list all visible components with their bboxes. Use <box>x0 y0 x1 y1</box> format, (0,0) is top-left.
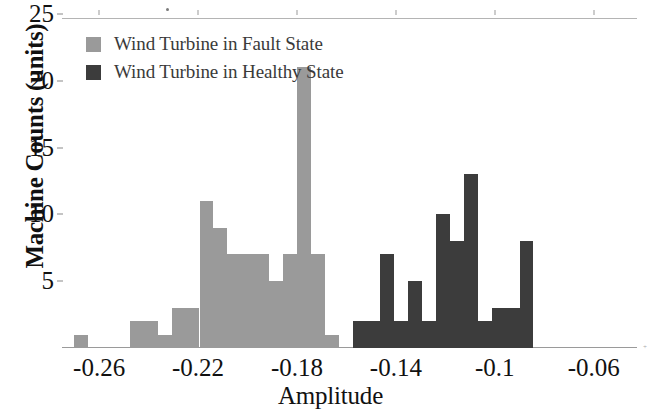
histogram-bar-fault <box>325 335 339 348</box>
histogram-bar-healthy <box>380 254 394 348</box>
x-tick-label: -0.26 <box>73 354 125 382</box>
histogram-bar-healthy <box>436 214 450 348</box>
x-tick-mark <box>593 10 594 15</box>
histogram-bar-healthy <box>464 174 478 348</box>
x-tick-mark <box>395 10 396 15</box>
histogram-bar-fault <box>130 321 144 348</box>
legend-swatch-icon <box>86 65 101 80</box>
histogram-bar-healthy <box>366 321 380 348</box>
histogram-bar-fault <box>311 254 325 348</box>
histogram-bar-fault <box>144 321 158 348</box>
histogram-bar-fault <box>158 335 172 348</box>
histogram-bar-fault <box>269 281 283 348</box>
histogram-bar-healthy <box>450 241 464 348</box>
x-tick-mark <box>296 10 297 15</box>
histogram-bar-healthy <box>506 308 520 348</box>
histogram-bar-fault <box>74 335 88 348</box>
histogram-bar-healthy <box>353 321 367 348</box>
top-axis-line <box>62 18 637 19</box>
x-axis-title: Amplitude <box>0 382 661 410</box>
legend: Wind Turbine in Fault StateWind Turbine … <box>86 30 344 86</box>
scan-speck-artifact <box>166 8 169 11</box>
histogram-bar-fault <box>227 254 241 348</box>
legend-item: Wind Turbine in Healthy State <box>86 58 344 86</box>
x-tick-label: -0.22 <box>172 354 224 382</box>
histogram-bar-fault <box>283 254 297 348</box>
legend-label: Wind Turbine in Fault State <box>114 33 323 55</box>
histogram-bar-healthy <box>422 321 436 348</box>
x-tick-label: -0.14 <box>370 354 422 382</box>
histogram-bar-fault <box>213 228 227 348</box>
x-tick-label: -0.1 <box>475 354 515 382</box>
y-tick-mark <box>57 147 63 148</box>
corner-artifact: + <box>643 343 647 351</box>
histogram-bar-healthy <box>478 321 492 348</box>
x-tick-label: -0.18 <box>271 354 323 382</box>
y-tick-mark <box>57 80 63 81</box>
x-tick-mark <box>198 10 199 15</box>
legend-label: Wind Turbine in Healthy State <box>114 61 344 83</box>
histogram-bar-fault <box>186 308 200 348</box>
x-tick-mark <box>494 10 495 15</box>
histogram-bar-fault <box>200 201 214 348</box>
y-tick-mark <box>57 14 63 15</box>
y-tick-mark <box>57 214 63 215</box>
histogram-bar-fault <box>255 254 269 348</box>
histogram-bar-fault <box>241 254 255 348</box>
histogram-bar-fault <box>297 67 311 348</box>
histogram-bar-healthy <box>394 321 408 348</box>
x-tick-mark <box>99 10 100 15</box>
histogram-figure: Machine Counts (units) 510152025 -0.26-0… <box>0 0 661 414</box>
y-tick-mark <box>57 281 63 282</box>
legend-item: Wind Turbine in Fault State <box>86 30 344 58</box>
histogram-bar-healthy <box>492 308 506 348</box>
legend-swatch-icon <box>86 37 101 52</box>
histogram-bar-healthy <box>408 281 422 348</box>
histogram-bar-healthy <box>520 241 534 348</box>
histogram-bar-fault <box>172 308 186 348</box>
x-tick-label: -0.06 <box>568 354 620 382</box>
